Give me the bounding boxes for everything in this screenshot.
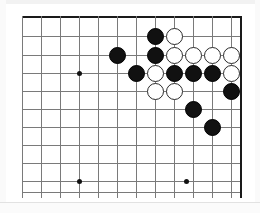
grid-line-horizontal <box>22 109 240 110</box>
grid-line-vertical <box>212 16 213 198</box>
black-stone-r3-c10[interactable] <box>185 65 202 82</box>
white-stone-r2-c9[interactable] <box>166 47 183 64</box>
grid-line-vertical <box>240 16 242 198</box>
scan-edge-right <box>255 0 260 213</box>
grid-line-vertical <box>60 16 61 198</box>
grid-line-vertical <box>41 16 42 198</box>
grid-line-vertical <box>79 16 80 198</box>
black-stone-r2-c8[interactable] <box>147 47 164 64</box>
grid-line-vertical <box>22 16 23 198</box>
black-stone-r3-c9[interactable] <box>166 65 183 82</box>
black-stone-r3-c11[interactable] <box>204 65 221 82</box>
black-stone-r2-c6[interactable] <box>109 47 126 64</box>
grid-line-horizontal <box>22 163 240 164</box>
go-board[interactable] <box>8 8 252 198</box>
white-stone-r2-c11[interactable] <box>204 47 221 64</box>
black-stone-r1-c8[interactable] <box>147 28 164 45</box>
grid-line-horizontal <box>22 192 240 193</box>
white-stone-r4-c8[interactable] <box>147 83 164 100</box>
white-stone-r2-c10[interactable] <box>185 47 202 64</box>
grid-line-vertical <box>98 16 99 198</box>
scan-edge-top <box>0 0 260 4</box>
star-point <box>184 179 189 184</box>
white-stone-r1-c9[interactable] <box>166 28 183 45</box>
grid-line-horizontal <box>22 36 240 37</box>
grid-line-vertical <box>231 16 232 198</box>
white-stone-r3-c8[interactable] <box>147 65 164 82</box>
grid-line-horizontal <box>22 145 240 146</box>
white-stone-r2-c12[interactable] <box>223 47 240 64</box>
white-stone-r4-c9[interactable] <box>166 83 183 100</box>
star-point <box>77 71 82 76</box>
grid-line-vertical <box>117 16 118 198</box>
black-stone-r6-c11[interactable] <box>204 119 221 136</box>
black-stone-r3-c7[interactable] <box>128 65 145 82</box>
black-stone-r4-c12[interactable] <box>223 83 240 100</box>
grid-line-vertical <box>136 16 137 198</box>
scan-edge-left <box>0 0 6 213</box>
white-stone-r3-c12[interactable] <box>223 65 240 82</box>
go-board-screenshot <box>0 0 260 213</box>
scan-edge-bottom <box>0 202 260 213</box>
grid-line-horizontal <box>22 91 240 92</box>
star-point <box>77 179 82 184</box>
black-stone-r5-c10[interactable] <box>185 101 202 118</box>
grid-line-horizontal <box>22 16 240 18</box>
grid-line-horizontal <box>22 181 240 182</box>
